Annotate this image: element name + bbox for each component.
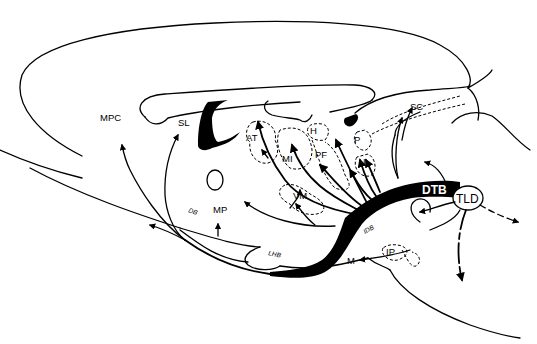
labels: MPC SL AT H MI PF P I VM SC DTB TLD DB M… [100, 101, 479, 266]
label-at: AT [246, 132, 258, 143]
label-mp: MP [213, 204, 227, 215]
label-sc: SC [410, 101, 423, 112]
label-mpc: MPC [100, 112, 121, 123]
brain-outline [20, 22, 530, 338]
label-h: H [310, 125, 317, 136]
label-tld: TLD [456, 192, 479, 206]
brain-projection-diagram: MPC SL AT H MI PF P I VM SC DTB TLD DB M… [0, 0, 537, 344]
label-vm: VM [293, 190, 307, 201]
label-idb: IDB [362, 223, 375, 235]
label-dtb: DTB [422, 183, 447, 197]
label-i: I [363, 156, 366, 167]
label-db: DB [188, 206, 200, 216]
habenula-blob [344, 114, 358, 126]
label-mi: MI [282, 153, 293, 164]
label-sl: SL [178, 117, 190, 128]
corpus-callosum [140, 85, 375, 124]
lhb-pathway [122, 135, 335, 274]
label-p: P [354, 134, 360, 145]
label-ip: IP [386, 246, 395, 257]
anterior-commissure [207, 170, 223, 190]
label-pf: PF [315, 149, 327, 160]
label-lhb: LHB [268, 249, 282, 259]
label-m: M [347, 255, 355, 266]
